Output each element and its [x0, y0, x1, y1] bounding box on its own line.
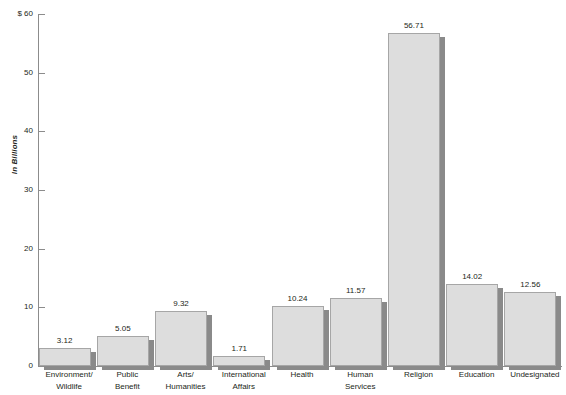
bar[interactable] — [330, 298, 382, 366]
x-axis-category-label: Environment/Wildlife — [40, 369, 98, 392]
bar-value-label: 11.57 — [330, 286, 382, 295]
x-axis-category-line: Undesignated — [506, 369, 564, 381]
x-axis-category-label: Education — [448, 369, 506, 381]
y-axis-tick-label: 20 — [0, 244, 33, 253]
bar-value-label: 1.71 — [213, 344, 265, 353]
x-axis-category-line: Health — [273, 369, 331, 381]
bar-group[interactable]: 1.71 — [213, 14, 271, 366]
bar-group[interactable]: 56.71 — [388, 14, 446, 366]
bar-group[interactable]: 12.56 — [504, 14, 562, 366]
x-axis-labels: Environment/WildlifePublicBenefitArts/Hu… — [38, 369, 562, 395]
bar[interactable] — [446, 284, 498, 366]
y-axis-tick-label: 30 — [0, 185, 33, 194]
x-axis-category-line: Education — [448, 369, 506, 381]
x-axis-category-line: International — [215, 369, 273, 381]
bar[interactable] — [272, 306, 324, 366]
bar[interactable] — [39, 348, 91, 366]
bar-value-label: 56.71 — [388, 21, 440, 30]
bar-chart: In Billions 01020304050$ 60 3.125.059.32… — [0, 0, 566, 395]
x-axis-category-label: Religion — [389, 369, 447, 381]
bar-value-label: 3.12 — [39, 336, 91, 345]
bar-value-label: 5.05 — [97, 324, 149, 333]
bar[interactable] — [504, 292, 556, 366]
bar[interactable] — [388, 33, 440, 366]
bar-group[interactable]: 10.24 — [272, 14, 330, 366]
y-axis-tick-label: 0 — [0, 361, 33, 370]
bar[interactable] — [213, 356, 265, 366]
y-axis-tick-label: $ 60 — [0, 9, 33, 18]
x-axis-category-line: Benefit — [98, 381, 156, 393]
plot-area: 3.125.059.321.7110.2411.5756.7114.0212.5… — [38, 14, 562, 366]
bar[interactable] — [97, 336, 149, 366]
y-axis-tick-label: 50 — [0, 68, 33, 77]
bar-value-label: 10.24 — [272, 294, 324, 303]
x-axis-category-label: Undesignated — [506, 369, 564, 381]
bar-group[interactable]: 3.12 — [39, 14, 97, 366]
x-axis-category-label: PublicBenefit — [98, 369, 156, 392]
x-axis-category-line: Human — [331, 369, 389, 381]
x-axis-category-line: Wildlife — [40, 381, 98, 393]
x-axis-category-label: Health — [273, 369, 331, 381]
bar-value-label: 12.56 — [504, 280, 556, 289]
x-axis-category-label: InternationalAffairs — [215, 369, 273, 392]
x-axis-category-line: Environment/ — [40, 369, 98, 381]
x-axis-category-line: Affairs — [215, 381, 273, 393]
bar-value-label: 14.02 — [446, 272, 498, 281]
bar-value-label: 9.32 — [155, 299, 207, 308]
bar-group[interactable]: 11.57 — [330, 14, 388, 366]
x-axis-category-line: Public — [98, 369, 156, 381]
x-axis-category-line: Arts/ — [157, 369, 215, 381]
x-axis-category-line: Services — [331, 381, 389, 393]
bar-group[interactable]: 5.05 — [97, 14, 155, 366]
x-axis-category-label: HumanServices — [331, 369, 389, 392]
x-axis-category-line: Humanities — [157, 381, 215, 393]
x-axis-category-label: Arts/Humanities — [157, 369, 215, 392]
bar-group[interactable]: 9.32 — [155, 14, 213, 366]
bar-group[interactable]: 14.02 — [446, 14, 504, 366]
x-axis-category-line: Religion — [389, 369, 447, 381]
y-axis-tick-label: 40 — [0, 126, 33, 135]
bar[interactable] — [155, 311, 207, 366]
y-axis-tick-label: 10 — [0, 302, 33, 311]
